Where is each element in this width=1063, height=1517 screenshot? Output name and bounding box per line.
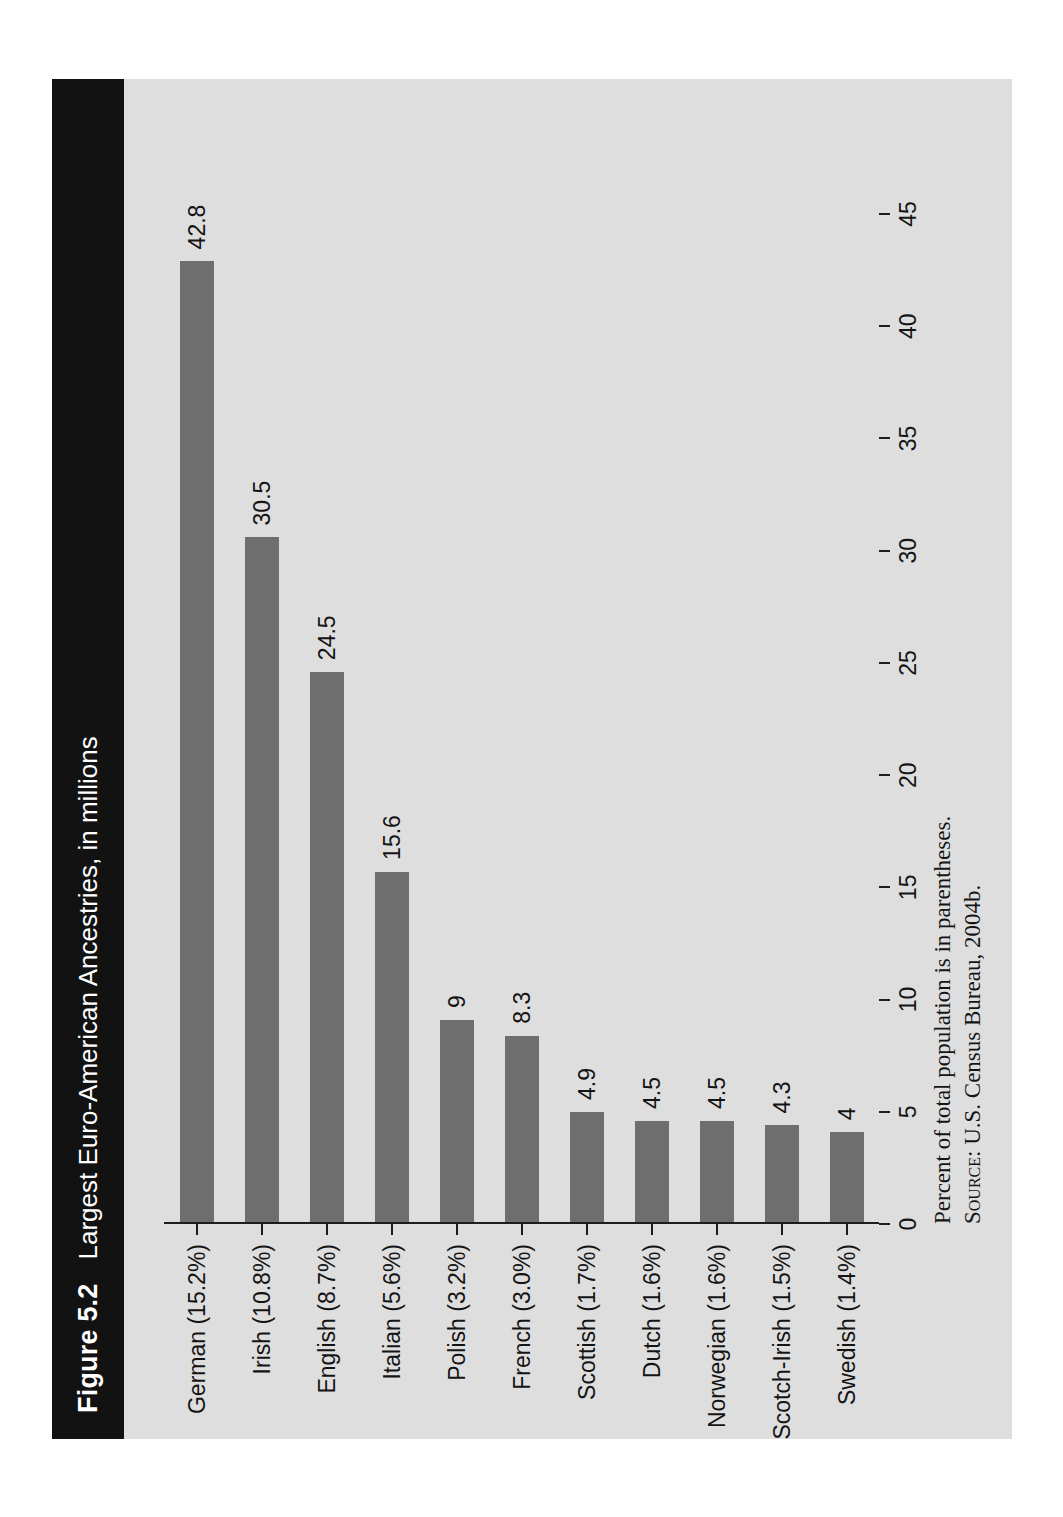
- bar-value-label: 42.8: [183, 204, 210, 249]
- bar: [764, 1125, 798, 1222]
- figure-rotation-wrapper: Figure 5.2 Largest Euro-American Ancestr…: [52, 79, 1012, 1439]
- axis-tick-label: 10: [895, 986, 922, 1012]
- category-label: Scotch-Irish (1.5%): [768, 1244, 795, 1440]
- category-tick: [650, 1224, 652, 1235]
- source-label: Source:: [960, 1150, 985, 1223]
- bar: [179, 261, 213, 1222]
- bar-value-label: 4.5: [638, 1077, 665, 1109]
- note-source: Source: U.S. Census Bureau, 2004b.: [958, 815, 988, 1223]
- axis-tick-label: 0: [895, 1217, 922, 1230]
- axis-tick: [879, 437, 890, 439]
- bar: [374, 871, 408, 1221]
- axis-tick: [879, 661, 890, 663]
- axis-tick-label: 30: [895, 537, 922, 563]
- source-text: U.S. Census Bureau, 2004b.: [960, 884, 985, 1144]
- category-label: German (15.2%): [183, 1244, 210, 1414]
- category-tick: [260, 1224, 262, 1235]
- bar: [829, 1132, 863, 1222]
- axis-tick-label: 5: [895, 1105, 922, 1118]
- bar-value-label: 24.5: [313, 615, 340, 660]
- category-tick: [455, 1224, 457, 1235]
- figure-title: Largest Euro-American Ancestries, in mil…: [72, 736, 103, 1259]
- figure-title-bar: Figure 5.2 Largest Euro-American Ancestr…: [52, 79, 124, 1439]
- figure-panel: Figure 5.2 Largest Euro-American Ancestr…: [52, 79, 1012, 1439]
- axis-tick: [879, 213, 890, 215]
- bar: [699, 1121, 733, 1222]
- bar-value-label: 4.5: [703, 1077, 730, 1109]
- axis-tick-label: 20: [895, 762, 922, 788]
- bar-value-label: 15.6: [378, 815, 405, 860]
- bar-value-label: 4.3: [768, 1081, 795, 1113]
- bar: [504, 1035, 538, 1221]
- category-tick: [520, 1224, 522, 1235]
- category-label: English (8.7%): [313, 1244, 340, 1394]
- axis-tick: [879, 774, 890, 776]
- category-label: Irish (10.8%): [248, 1244, 275, 1374]
- chart-axes: 05101520253035404542.8German (15.2%)30.5…: [164, 214, 879, 1224]
- bar: [634, 1121, 668, 1222]
- category-tick: [325, 1224, 327, 1235]
- bar: [244, 537, 278, 1222]
- axis-tick-label: 40: [895, 313, 922, 339]
- axis-tick: [879, 1110, 890, 1112]
- plot-area: 05101520253035404542.8German (15.2%)30.5…: [124, 79, 1012, 1439]
- bar-value-label: 8.3: [508, 991, 535, 1023]
- axis-tick: [879, 325, 890, 327]
- bar: [569, 1112, 603, 1222]
- category-tick: [195, 1224, 197, 1235]
- category-tick: [845, 1224, 847, 1235]
- category-tick: [780, 1224, 782, 1235]
- category-tick: [715, 1224, 717, 1235]
- axis-tick: [879, 998, 890, 1000]
- category-label: Polish (3.2%): [443, 1244, 470, 1381]
- note-parentheses: Percent of total population is in parent…: [928, 815, 958, 1223]
- bar: [439, 1020, 473, 1222]
- axis-tick-label: 15: [895, 874, 922, 900]
- figure-notes: Percent of total population is in parent…: [928, 815, 988, 1223]
- category-label: Scottish (1.7%): [573, 1244, 600, 1400]
- axis-tick-label: 25: [895, 650, 922, 676]
- category-tick: [390, 1224, 392, 1235]
- category-label: Norwegian (1.6%): [703, 1244, 730, 1428]
- figure-number: Figure 5.2: [72, 1283, 103, 1413]
- category-label: Italian (5.6%): [378, 1244, 405, 1380]
- category-tick: [585, 1224, 587, 1235]
- category-label: French (3.0%): [508, 1244, 535, 1390]
- axis-tick: [879, 886, 890, 888]
- category-label: Swedish (1.4%): [833, 1244, 860, 1405]
- bar: [309, 672, 343, 1222]
- bar-value-label: 4.9: [573, 1068, 600, 1100]
- axis-tick: [879, 549, 890, 551]
- bar-value-label: 4: [833, 1107, 860, 1120]
- bar-value-label: 9: [443, 995, 470, 1008]
- category-label: Dutch (1.6%): [638, 1244, 665, 1378]
- axis-tick-label: 45: [895, 201, 922, 227]
- axis-tick: [879, 1223, 890, 1225]
- axis-tick-label: 35: [895, 425, 922, 451]
- bar-value-label: 30.5: [248, 480, 275, 525]
